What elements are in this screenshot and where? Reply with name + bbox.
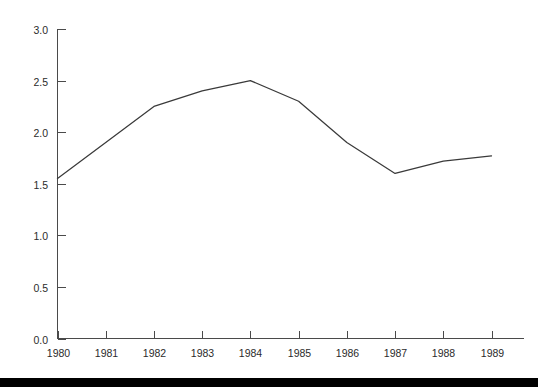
x-tick-label: 1980 (47, 347, 71, 359)
x-tick-label: 1983 (191, 347, 215, 359)
y-tick-label: 0.0 (33, 334, 48, 346)
y-tick-label: 2.0 (33, 127, 48, 139)
x-tick-label: 1985 (288, 347, 312, 359)
x-tick-label: 1989 (481, 347, 505, 359)
x-tick-label: 1986 (336, 347, 360, 359)
chart-canvas: 0.00.51.01.52.02.53.0 198019811982198319… (0, 0, 538, 378)
y-tick-label: 1.5 (33, 179, 48, 191)
y-tick-label: 2.5 (33, 76, 48, 88)
line-chart: 0.00.51.01.52.02.53.0 198019811982198319… (0, 0, 538, 378)
x-tick-label: 1987 (384, 347, 408, 359)
chart-background (0, 0, 538, 378)
y-tick-label: 3.0 (33, 24, 48, 36)
y-tick-label: 1.0 (33, 230, 48, 242)
y-tick-label: 0.5 (33, 282, 48, 294)
footer-bar (0, 378, 538, 387)
x-tick-label: 1982 (143, 347, 167, 359)
x-tick-label: 1984 (239, 347, 263, 359)
x-tick-label: 1988 (432, 347, 456, 359)
x-tick-label: 1981 (95, 347, 119, 359)
